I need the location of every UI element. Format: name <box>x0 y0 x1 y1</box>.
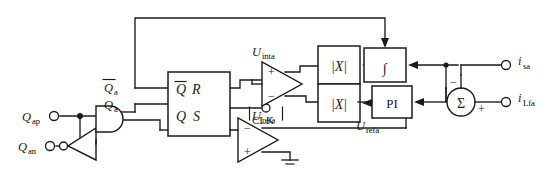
summing-junction[interactable]: Σ − + <box>447 75 485 116</box>
label-u-refa-main: U <box>356 119 366 133</box>
terminal-i-lfa[interactable] <box>502 98 511 107</box>
label-qbar-a-sub: a <box>114 87 118 97</box>
inverter-triangle <box>68 128 96 160</box>
summer-label: Σ <box>457 96 465 111</box>
label-u-refa-abs-sub: refa <box>262 115 275 125</box>
summer-minus-sign: − <box>450 75 457 89</box>
net-pi-input <box>414 98 446 106</box>
flipflop-pin-s: S <box>193 109 200 124</box>
circuit-diagram: Q R Q S CLK + − − + <box>0 0 556 175</box>
label-i-sa: i sa <box>518 54 530 71</box>
integrator-block[interactable]: ∫ <box>364 48 406 82</box>
label-i-sa-sub: sa <box>523 61 530 71</box>
net-q-a <box>135 104 168 112</box>
schematic-canvas: Q R Q S CLK + − − + <box>0 0 556 175</box>
comparator-bottom-plus-sign: + <box>244 145 251 159</box>
label-q-ap: Q ap <box>22 110 40 126</box>
label-u-inta-main: U <box>252 45 262 59</box>
sr-flipflop[interactable]: Q R Q S <box>168 72 230 136</box>
label-u-refa-abs-main: U <box>252 109 262 123</box>
label-i-sa-main: i <box>518 54 522 68</box>
comparator-top[interactable]: + − <box>252 62 302 106</box>
pi-label: PI <box>386 96 398 111</box>
label-q-a-main: Q <box>104 98 113 112</box>
label-u-inta-sub: inta <box>262 51 275 61</box>
terminal-q-ap[interactable] <box>50 112 59 121</box>
net-and-output <box>118 112 168 130</box>
label-i-lfa-sub: Lfa <box>523 98 535 108</box>
integrator-input-arrow <box>408 61 418 69</box>
flipflop-pin-r: R <box>191 82 201 97</box>
label-q-ap-main: Q <box>22 110 31 124</box>
comparator-top-plus-sign: + <box>268 65 275 79</box>
feedback-arrow-into-integrator <box>381 38 389 48</box>
label-i-lfa-main: i <box>518 91 522 105</box>
label-q-a: Q a <box>104 98 118 114</box>
label-u-inta: U inta <box>252 45 275 61</box>
label-q-ap-sub: ap <box>32 116 40 126</box>
inverter[interactable] <box>60 128 97 160</box>
label-qbar-a: Q a <box>103 80 118 98</box>
abs-bottom-input-arrow <box>362 99 372 107</box>
label-q-an: Q an <box>18 140 37 156</box>
summer-plus-sign: + <box>478 102 485 116</box>
flipflop-pin-q: Q <box>176 109 186 124</box>
label-u-refa-sub: refa <box>366 125 379 135</box>
label-q-a-sub: a <box>114 104 118 114</box>
label-u-refa: U refa <box>356 119 379 135</box>
pi-block[interactable]: PI <box>372 86 412 118</box>
comparator-bottom-minus-sign: − <box>244 121 251 135</box>
abs-block-top[interactable]: |X| <box>318 46 360 84</box>
inverter-bubble-icon <box>60 142 68 150</box>
label-q-an-main: Q <box>18 140 27 154</box>
abs-block-bottom[interactable]: |X| <box>318 84 360 122</box>
flipflop-pin-qbar: Q <box>176 82 186 97</box>
abs-bottom-label: |X| <box>331 97 347 112</box>
terminal-q-an[interactable] <box>46 142 55 151</box>
label-i-lfa: i Lfa <box>518 91 535 108</box>
pi-input-arrow <box>414 98 424 106</box>
label-q-an-sub: an <box>28 146 37 156</box>
ground-symbol <box>282 160 298 164</box>
comparator-top-minus-sign: − <box>268 89 275 103</box>
label-qbar-a-main: Q <box>104 81 113 95</box>
abs-top-label: |X| <box>331 59 347 74</box>
terminal-i-sa[interactable] <box>502 61 511 70</box>
